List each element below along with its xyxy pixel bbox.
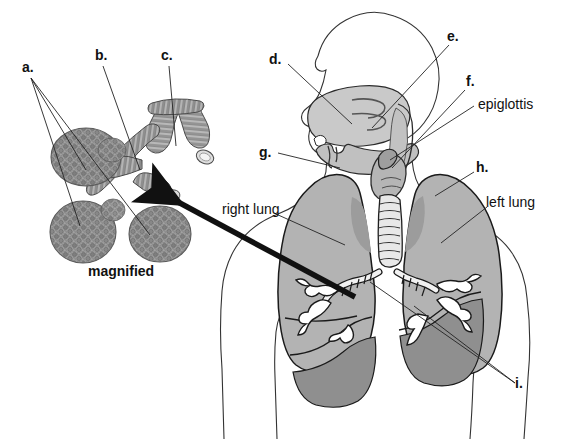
label-h: h. bbox=[476, 159, 488, 175]
label-left-lung: left lung bbox=[486, 194, 535, 210]
label-right-lung: right lung bbox=[222, 201, 280, 217]
torso-left bbox=[221, 291, 225, 439]
trachea-group bbox=[378, 195, 402, 267]
magnified-inset-group: a. b. c. magnified bbox=[22, 47, 216, 279]
torso-right bbox=[524, 298, 530, 439]
trachea-tube bbox=[378, 195, 402, 267]
label-a: a. bbox=[22, 59, 34, 75]
label-c: c. bbox=[161, 47, 173, 63]
diagram-canvas: a. b. c. magnified bbox=[0, 0, 570, 439]
label-e: e. bbox=[447, 28, 459, 44]
label-b: b. bbox=[95, 47, 107, 63]
label-d: d. bbox=[269, 51, 281, 67]
label-f: f. bbox=[466, 73, 475, 89]
label-epiglottis: epiglottis bbox=[478, 96, 533, 112]
magnified-caption: magnified bbox=[88, 263, 154, 279]
label-g: g. bbox=[259, 144, 271, 160]
label-i: i. bbox=[515, 375, 523, 391]
